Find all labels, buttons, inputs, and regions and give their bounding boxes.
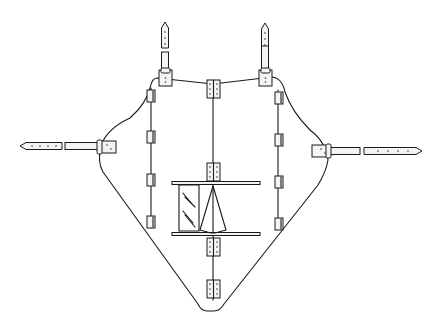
- rivet: [216, 241, 218, 243]
- rivet: [209, 83, 211, 85]
- diagram-svg: [0, 0, 442, 314]
- rivet: [265, 81, 267, 83]
- mirror-unit: [172, 182, 260, 236]
- outline-path: [99, 77, 328, 311]
- rivet: [216, 283, 218, 285]
- rivet: [209, 293, 211, 295]
- strap-hole: [397, 150, 399, 152]
- rivet: [209, 176, 211, 178]
- buckle: [326, 144, 331, 158]
- rivet: [216, 93, 218, 95]
- small-hinge: [275, 218, 283, 230]
- strap-band: [262, 46, 269, 70]
- rivet: [209, 166, 211, 168]
- strap-hole: [264, 32, 266, 34]
- small-hinge: [275, 176, 283, 188]
- rivet: [209, 171, 211, 173]
- hinges: [147, 80, 283, 298]
- harness-diagram: [0, 0, 442, 314]
- rivet: [216, 83, 218, 85]
- strap-hole: [164, 31, 166, 33]
- strap-hole: [164, 37, 166, 39]
- strap-band: [162, 52, 169, 70]
- buckle: [97, 140, 102, 154]
- strap-hole: [264, 38, 266, 40]
- rivet: [209, 251, 211, 253]
- rivet: [209, 241, 211, 243]
- rivet: [265, 77, 267, 79]
- rivet: [209, 88, 211, 90]
- support-bar: [172, 182, 260, 185]
- small-hinge: [275, 92, 283, 104]
- strap-hole: [47, 145, 49, 147]
- strap-band: [65, 143, 100, 150]
- glass-hatch: [185, 197, 195, 207]
- rivet: [216, 88, 218, 90]
- small-hinge: [147, 174, 155, 186]
- rivet: [209, 288, 211, 290]
- strap-band: [328, 148, 360, 155]
- rivet: [320, 148, 322, 150]
- rivet: [216, 171, 218, 173]
- strap-hole: [39, 145, 41, 147]
- strap-hole: [31, 145, 33, 147]
- glass-hatch: [183, 211, 193, 223]
- harness-outline: [99, 77, 328, 311]
- straps: [20, 22, 422, 158]
- mirror-pane: [179, 185, 199, 231]
- rivet: [209, 246, 211, 248]
- strap-tip: [364, 148, 422, 155]
- small-hinge: [147, 216, 155, 228]
- rivet: [216, 293, 218, 295]
- rivet: [110, 148, 112, 150]
- buckle: [261, 68, 270, 73]
- rivet: [106, 144, 108, 146]
- small-hinge: [147, 90, 155, 102]
- rivet: [216, 246, 218, 248]
- rivet: [216, 166, 218, 168]
- rivet: [216, 251, 218, 253]
- rivet: [209, 283, 211, 285]
- strap-hole: [387, 150, 389, 152]
- small-hinge: [275, 134, 283, 146]
- rivet: [165, 81, 167, 83]
- strap-hole: [55, 145, 57, 147]
- buckle: [161, 68, 170, 73]
- rivet: [216, 176, 218, 178]
- strap-hole: [164, 43, 166, 45]
- glass-hatch: [185, 215, 195, 227]
- rivet: [216, 288, 218, 290]
- strap-hole: [407, 150, 409, 152]
- rivet: [324, 152, 326, 154]
- strap-hole: [377, 150, 379, 152]
- rivet: [165, 77, 167, 79]
- small-hinge: [147, 131, 155, 143]
- rivet: [209, 93, 211, 95]
